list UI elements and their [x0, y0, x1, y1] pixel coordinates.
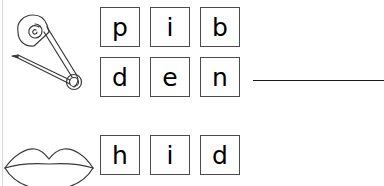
letter-tile[interactable]: d	[100, 57, 140, 97]
safety-pin-icon	[6, 8, 98, 100]
letter-tile-row-1: p i b	[100, 7, 240, 47]
letter-tile[interactable]: i	[150, 7, 190, 47]
letter-tile[interactable]: e	[150, 57, 190, 97]
letter-tile-label: i	[167, 143, 174, 168]
letter-tile-row-3: h i d	[100, 135, 240, 175]
letter-tile-label: i	[167, 15, 174, 40]
letter-tile[interactable]: h	[100, 135, 140, 175]
letter-tile-label: n	[212, 65, 228, 90]
letter-tile[interactable]: i	[150, 135, 190, 175]
letter-tile[interactable]: b	[200, 7, 240, 47]
letter-tile-label: b	[212, 15, 228, 40]
letter-tile-label: d	[212, 143, 228, 168]
worksheet-canvas: p i b d e n h i d	[0, 0, 384, 186]
lips-icon	[2, 146, 96, 186]
answer-write-line[interactable]	[253, 80, 384, 81]
letter-tile[interactable]: n	[200, 57, 240, 97]
letter-tile[interactable]: d	[200, 135, 240, 175]
letter-tile-row-2: d e n	[100, 57, 240, 97]
letter-tile[interactable]: p	[100, 7, 140, 47]
letter-tile-label: e	[162, 65, 177, 90]
letter-tile-label: h	[112, 143, 128, 168]
letter-tile-label: d	[112, 65, 128, 90]
letter-tile-label: p	[112, 15, 128, 40]
